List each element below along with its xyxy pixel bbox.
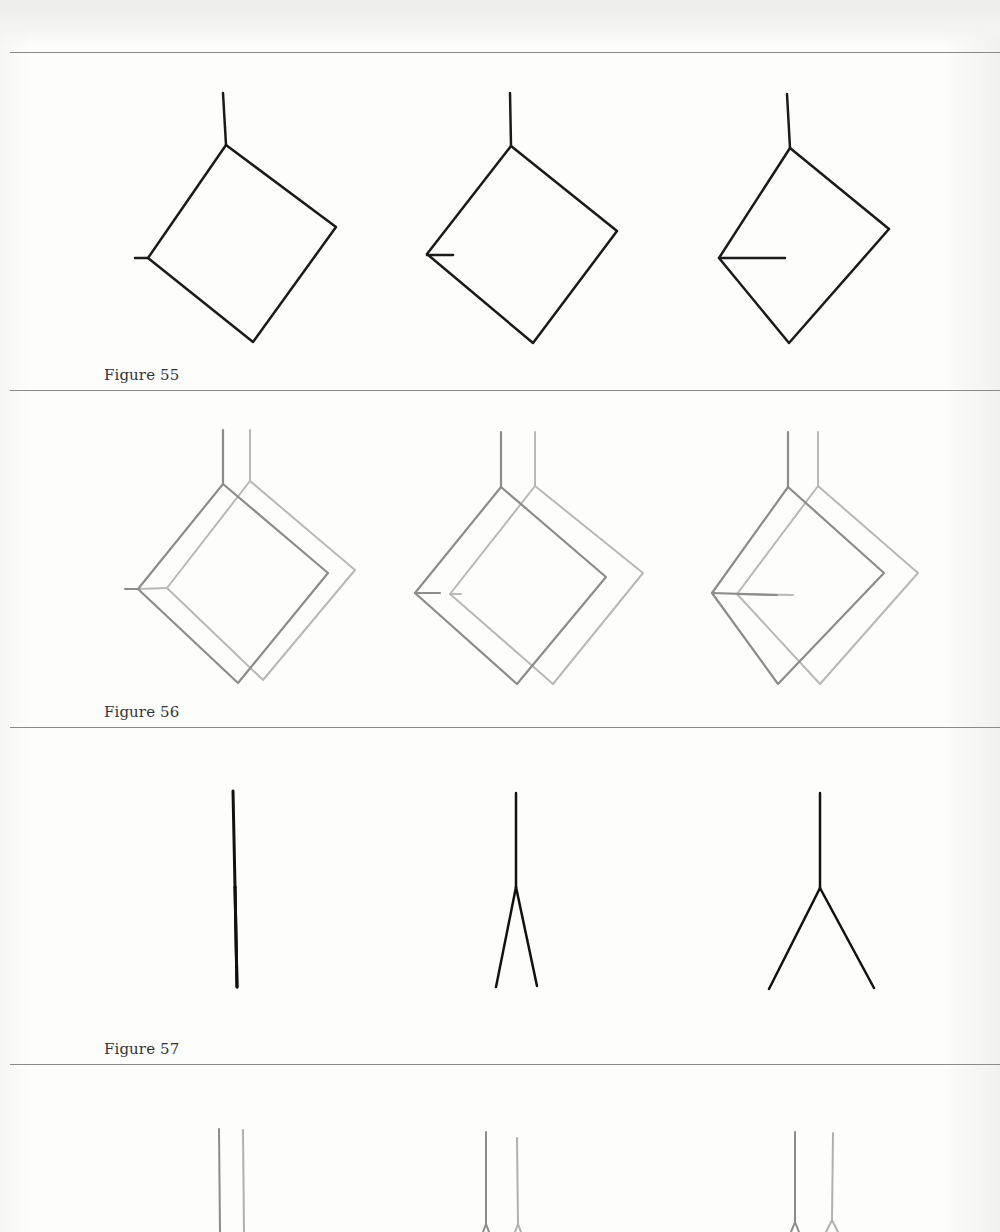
rotated-square: [719, 148, 889, 343]
figure-panel-3: [719, 94, 889, 343]
fork-leg: [769, 888, 820, 989]
figure-panel-1: [125, 430, 355, 683]
stem-line: [219, 1129, 220, 1232]
stem-line: [510, 93, 511, 146]
stem-line: [233, 791, 235, 887]
figure-caption: Figure 57: [104, 1040, 179, 1058]
tick-line: [138, 588, 167, 589]
figure-panel-3: [791, 1132, 838, 1232]
figure-figure-57: [233, 791, 874, 989]
rotated-square: [712, 487, 884, 684]
stem-line: [243, 1130, 244, 1232]
figure-divider: [10, 390, 1000, 391]
rotated-square: [737, 486, 918, 684]
figure-panel-2: [496, 793, 537, 987]
figure-panel-2: [415, 432, 643, 684]
fork-leg: [516, 887, 537, 986]
figure-partial: [219, 1129, 838, 1232]
figure-panel-1: [219, 1129, 244, 1232]
figure-panel-3: [769, 793, 874, 989]
figure-figure-55: [135, 93, 889, 343]
fork-leg: [486, 1224, 489, 1232]
figure-divider: [10, 727, 1000, 728]
stem-line: [832, 1133, 833, 1220]
fork-leg: [496, 887, 516, 987]
fork-leg: [832, 1220, 838, 1232]
rotated-square: [148, 145, 336, 342]
figure-caption: Figure 55: [104, 366, 179, 384]
figure-figure-56: [125, 430, 918, 684]
stem-line: [787, 94, 790, 148]
figure-caption: Figure 56: [104, 703, 179, 721]
rotated-square: [167, 481, 355, 680]
figure-panel-1: [233, 791, 237, 987]
stem-line: [517, 1138, 518, 1224]
figure-panel-3: [712, 432, 918, 684]
fork-leg: [826, 1220, 832, 1232]
figure-panel-1: [135, 93, 336, 342]
fork-leg: [795, 1222, 799, 1232]
stem-line: [223, 93, 226, 145]
tick-line: [712, 593, 777, 595]
figure-panel-2: [483, 1132, 521, 1232]
rotated-square: [427, 146, 617, 343]
rotated-square: [138, 484, 328, 683]
fork-leg: [235, 887, 237, 987]
fork-leg: [820, 888, 874, 988]
fork-leg: [791, 1222, 795, 1232]
figure-panel-2: [427, 93, 617, 343]
figure-divider: [10, 1064, 1000, 1065]
fork-leg: [518, 1224, 521, 1232]
